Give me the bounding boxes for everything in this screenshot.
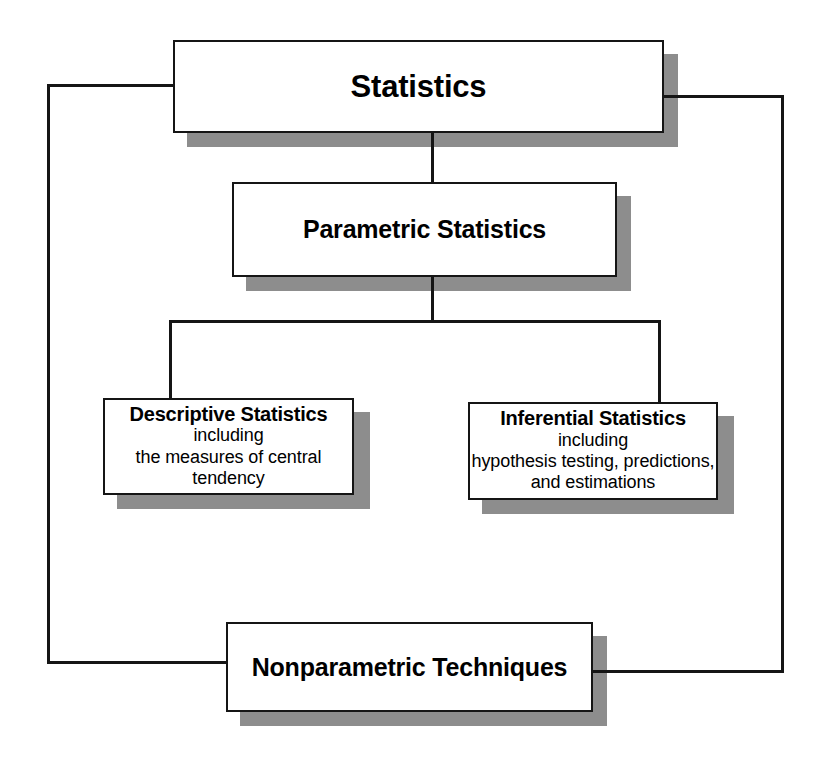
- node-inferential-statistics[interactable]: Inferential Statistics including hypothe…: [468, 402, 718, 500]
- connector-split-to-inferential: [658, 320, 661, 404]
- node-descriptive-statistics-subline-3: tendency: [192, 468, 264, 489]
- connector-statistics-left-stub: [47, 84, 175, 87]
- connector-statistics-right-stub: [662, 95, 784, 98]
- connector-left-loop-vertical: [47, 84, 50, 664]
- node-parametric-statistics[interactable]: Parametric Statistics: [232, 182, 617, 277]
- node-nonparametric-techniques-title: Nonparametric Techniques: [252, 654, 568, 681]
- node-statistics-title: Statistics: [351, 70, 487, 103]
- connector-split-to-descriptive: [169, 320, 172, 400]
- node-parametric-statistics-title: Parametric Statistics: [303, 216, 546, 243]
- connector-right-loop-vertical: [781, 95, 784, 673]
- node-inferential-statistics-subline-3: and estimations: [531, 472, 656, 493]
- node-descriptive-statistics[interactable]: Descriptive Statistics including the mea…: [103, 398, 354, 495]
- node-inferential-statistics-title: Inferential Statistics: [500, 408, 686, 430]
- node-nonparametric-techniques[interactable]: Nonparametric Techniques: [226, 622, 593, 712]
- node-inferential-statistics-subline-1: including: [558, 430, 628, 451]
- connector-statistics-to-parametric: [431, 133, 434, 184]
- node-descriptive-statistics-subline-2: the measures of central: [136, 447, 322, 468]
- connector-nonparametric-right-stub: [591, 670, 784, 673]
- node-descriptive-statistics-title: Descriptive Statistics: [130, 404, 328, 426]
- connector-split-bar: [169, 320, 661, 323]
- diagram-canvas: Statistics Parametric Statistics Descrip…: [0, 0, 827, 762]
- node-statistics[interactable]: Statistics: [173, 40, 664, 133]
- connector-nonparametric-left-stub: [47, 661, 228, 664]
- node-descriptive-statistics-subline-1: including: [193, 425, 263, 446]
- connector-parametric-to-split: [431, 277, 434, 323]
- node-inferential-statistics-subline-2: hypothesis testing, predictions,: [472, 451, 715, 472]
